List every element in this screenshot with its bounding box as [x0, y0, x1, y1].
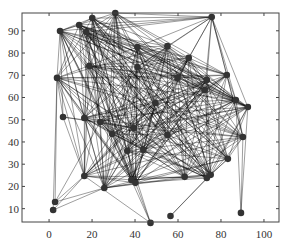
graph-node — [134, 64, 141, 71]
graph-node — [50, 207, 57, 214]
y-tick-label: 80 — [8, 47, 20, 59]
graph-edge — [60, 17, 212, 31]
graph-node — [140, 147, 147, 154]
graph-node — [97, 119, 104, 126]
network-graph-chart: 020406080100 102030405060708090 — [0, 0, 288, 246]
graph-node — [86, 63, 93, 70]
graph-node — [132, 180, 139, 187]
graph-node — [164, 43, 171, 50]
graph-node — [52, 199, 59, 206]
y-tick-label: 50 — [8, 114, 20, 126]
graph-node — [83, 29, 90, 36]
graph-node — [240, 134, 247, 141]
graph-node — [167, 213, 174, 220]
graph-node — [225, 156, 232, 163]
graph-node — [203, 77, 210, 84]
graph-edge — [63, 117, 84, 176]
graph-node — [81, 115, 88, 122]
graph-node — [109, 131, 116, 138]
graph-edge — [236, 100, 241, 213]
graph-node — [207, 172, 214, 179]
x-tick-label: 40 — [130, 228, 142, 240]
y-tick-label: 70 — [8, 69, 20, 81]
graph-node — [54, 75, 61, 82]
graph-node — [130, 125, 137, 132]
graph-edge — [57, 31, 60, 78]
graph-node — [124, 148, 131, 155]
graph-node — [174, 75, 181, 82]
graph-node — [181, 174, 188, 181]
x-tick-label: 100 — [256, 228, 273, 240]
x-tick-label: 80 — [215, 228, 227, 240]
y-tick-label: 90 — [8, 25, 20, 37]
x-tick-label: 0 — [46, 228, 52, 240]
graph-edge — [53, 176, 84, 210]
y-tick-label: 10 — [8, 203, 20, 215]
y-tick-label: 20 — [8, 180, 20, 192]
graph-node — [57, 28, 64, 35]
graph-edge — [115, 13, 211, 17]
graph-node — [164, 132, 171, 139]
graph-node — [245, 104, 252, 111]
graph-node — [152, 100, 159, 107]
y-tick-label: 60 — [8, 91, 20, 103]
y-tick-label: 30 — [8, 158, 20, 170]
graph-node — [101, 185, 108, 192]
x-tick-label: 20 — [87, 228, 99, 240]
graph-node — [147, 220, 154, 227]
y-tick-label: 40 — [8, 136, 20, 148]
graph-node — [223, 72, 230, 79]
graph-node — [185, 55, 192, 62]
x-tick-label: 60 — [173, 228, 185, 240]
graph-edge — [170, 175, 210, 216]
graph-node — [81, 173, 88, 180]
graph-node — [238, 210, 245, 217]
graph-node — [208, 14, 215, 21]
graph-node — [60, 114, 67, 121]
graph-node — [233, 97, 240, 104]
graph-node — [134, 44, 141, 51]
graph-node — [201, 87, 208, 94]
graph-node — [76, 22, 83, 29]
